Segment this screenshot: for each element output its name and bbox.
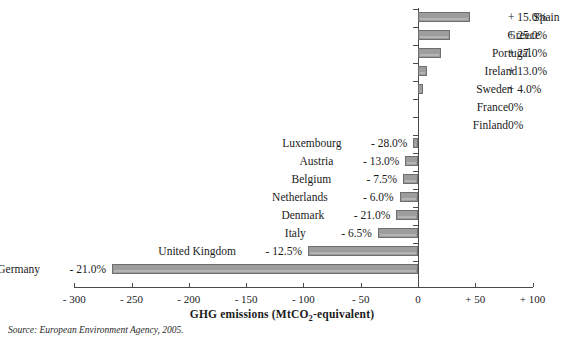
percent-label-netherlands: - 6.0% bbox=[334, 189, 394, 205]
country-label-belgium: Belgium bbox=[191, 171, 331, 187]
country-label-italy: Italy bbox=[166, 225, 306, 241]
bar-sweden bbox=[418, 84, 423, 94]
percent-label-austria: - 13.0% bbox=[339, 153, 399, 169]
chart-row: France0% bbox=[0, 98, 564, 116]
bar-highlight bbox=[420, 72, 425, 74]
percent-label-ireland: + 13.0% bbox=[508, 63, 564, 79]
chart-row: Netherlands- 6.0% bbox=[0, 188, 564, 206]
bar-highlight bbox=[380, 234, 416, 236]
percent-label-italy: - 6.5% bbox=[312, 225, 372, 241]
percent-label-united-kingdom: - 12.5% bbox=[242, 243, 302, 259]
bar-spain bbox=[418, 12, 470, 22]
chart-row: Finland0% bbox=[0, 116, 564, 134]
x-axis-title: GHG emissions (MtCO2-equivalent) bbox=[0, 308, 564, 323]
percent-label-finland: 0% bbox=[508, 117, 564, 133]
chart-row: Spain+ 15.0% bbox=[0, 8, 564, 26]
x-axis-tick bbox=[132, 283, 133, 287]
bar-united-kingdom bbox=[308, 246, 418, 256]
x-axis-tick-label: - 50 bbox=[331, 292, 391, 306]
bar-highlight bbox=[420, 90, 421, 92]
bar-greece bbox=[418, 30, 450, 40]
x-axis-tick bbox=[74, 283, 75, 287]
country-label-germany: Germany bbox=[0, 261, 40, 277]
bar-portugal bbox=[418, 48, 441, 58]
x-axis-tick-label: + 50 bbox=[445, 292, 505, 306]
ghg-emissions-chart: - 300- 250- 200- 150- 100- 500+ 50+ 100S… bbox=[0, 0, 564, 342]
x-axis-title-main: GHG emissions (MtCO bbox=[190, 308, 309, 320]
x-axis-tick bbox=[361, 283, 362, 287]
bar-germany bbox=[112, 264, 418, 274]
country-label-luxembourg: Luxembourg bbox=[201, 135, 341, 151]
country-label-france: France bbox=[424, 99, 508, 115]
chart-row: Denmark- 21.0% bbox=[0, 206, 564, 224]
bar-denmark bbox=[396, 210, 418, 220]
country-label-united-kingdom: United Kingdom bbox=[96, 243, 236, 259]
x-axis-tick-label: + 100 bbox=[503, 292, 563, 306]
percent-label-spain: + 15.0% bbox=[508, 9, 564, 25]
x-axis-tick-label: - 150 bbox=[216, 292, 276, 306]
chart-row: United Kingdom- 12.5% bbox=[0, 242, 564, 260]
bar-highlight bbox=[420, 36, 448, 38]
percent-label-germany: - 21.0% bbox=[46, 261, 106, 277]
bar-austria bbox=[405, 156, 418, 166]
x-axis-line bbox=[74, 287, 532, 288]
bar-highlight bbox=[114, 270, 416, 272]
bar-highlight bbox=[415, 144, 416, 146]
chart-row: Luxembourg- 28.0% bbox=[0, 134, 564, 152]
bar-highlight bbox=[402, 198, 416, 200]
chart-row: Portugal+ 27.0% bbox=[0, 44, 564, 62]
bar-highlight bbox=[420, 54, 439, 56]
bar-highlight bbox=[398, 216, 416, 218]
percent-label-luxembourg: - 28.0% bbox=[347, 135, 407, 151]
x-axis-tick-label: 0 bbox=[388, 292, 448, 306]
x-axis-tick-label: - 200 bbox=[159, 292, 219, 306]
source-note: Source: European Environment Agency, 200… bbox=[8, 325, 184, 335]
percent-label-portugal: + 27.0% bbox=[508, 45, 564, 61]
country-label-sweden: Sweden bbox=[429, 81, 513, 97]
country-label-denmark: Denmark bbox=[184, 207, 324, 223]
country-label-austria: Austria bbox=[193, 153, 333, 169]
chart-row: Italy- 6.5% bbox=[0, 224, 564, 242]
bar-ireland bbox=[418, 66, 427, 76]
x-axis-tick-label: - 100 bbox=[273, 292, 333, 306]
x-axis-title-tail: -equivalent) bbox=[313, 308, 374, 320]
x-axis-tick bbox=[303, 283, 304, 287]
chart-row: Ireland+ 13.0% bbox=[0, 62, 564, 80]
bar-highlight bbox=[310, 252, 416, 254]
cropped-title bbox=[60, 0, 420, 4]
chart-row: Greece+ 25.0% bbox=[0, 26, 564, 44]
percent-label-belgium: - 7.5% bbox=[337, 171, 397, 187]
x-axis-tick bbox=[533, 283, 534, 287]
x-axis-tick-label: - 300 bbox=[44, 292, 104, 306]
percent-label-greece: + 25.0% bbox=[508, 27, 564, 43]
x-axis-tick bbox=[418, 283, 419, 287]
percent-label-denmark: - 21.0% bbox=[330, 207, 390, 223]
x-axis-tick bbox=[475, 283, 476, 287]
bar-highlight bbox=[407, 162, 416, 164]
country-label-ireland: Ireland bbox=[433, 63, 517, 79]
chart-row: Germany- 21.0% bbox=[0, 260, 564, 278]
percent-label-sweden: + 4.0% bbox=[508, 81, 564, 97]
bar-netherlands bbox=[400, 192, 418, 202]
percent-label-france: 0% bbox=[508, 99, 564, 115]
bar-highlight bbox=[420, 18, 468, 20]
bar-highlight bbox=[405, 180, 416, 182]
chart-row: Belgium- 7.5% bbox=[0, 170, 564, 188]
x-axis-tick bbox=[246, 283, 247, 287]
country-label-netherlands: Netherlands bbox=[188, 189, 328, 205]
bar-belgium bbox=[403, 174, 418, 184]
chart-row: Sweden+ 4.0% bbox=[0, 80, 564, 98]
chart-row: Austria- 13.0% bbox=[0, 152, 564, 170]
bar-luxembourg bbox=[413, 138, 418, 148]
country-label-finland: Finland bbox=[424, 117, 508, 133]
x-axis-tick bbox=[189, 283, 190, 287]
bar-italy bbox=[378, 228, 418, 238]
x-axis-tick-label: - 250 bbox=[102, 292, 162, 306]
